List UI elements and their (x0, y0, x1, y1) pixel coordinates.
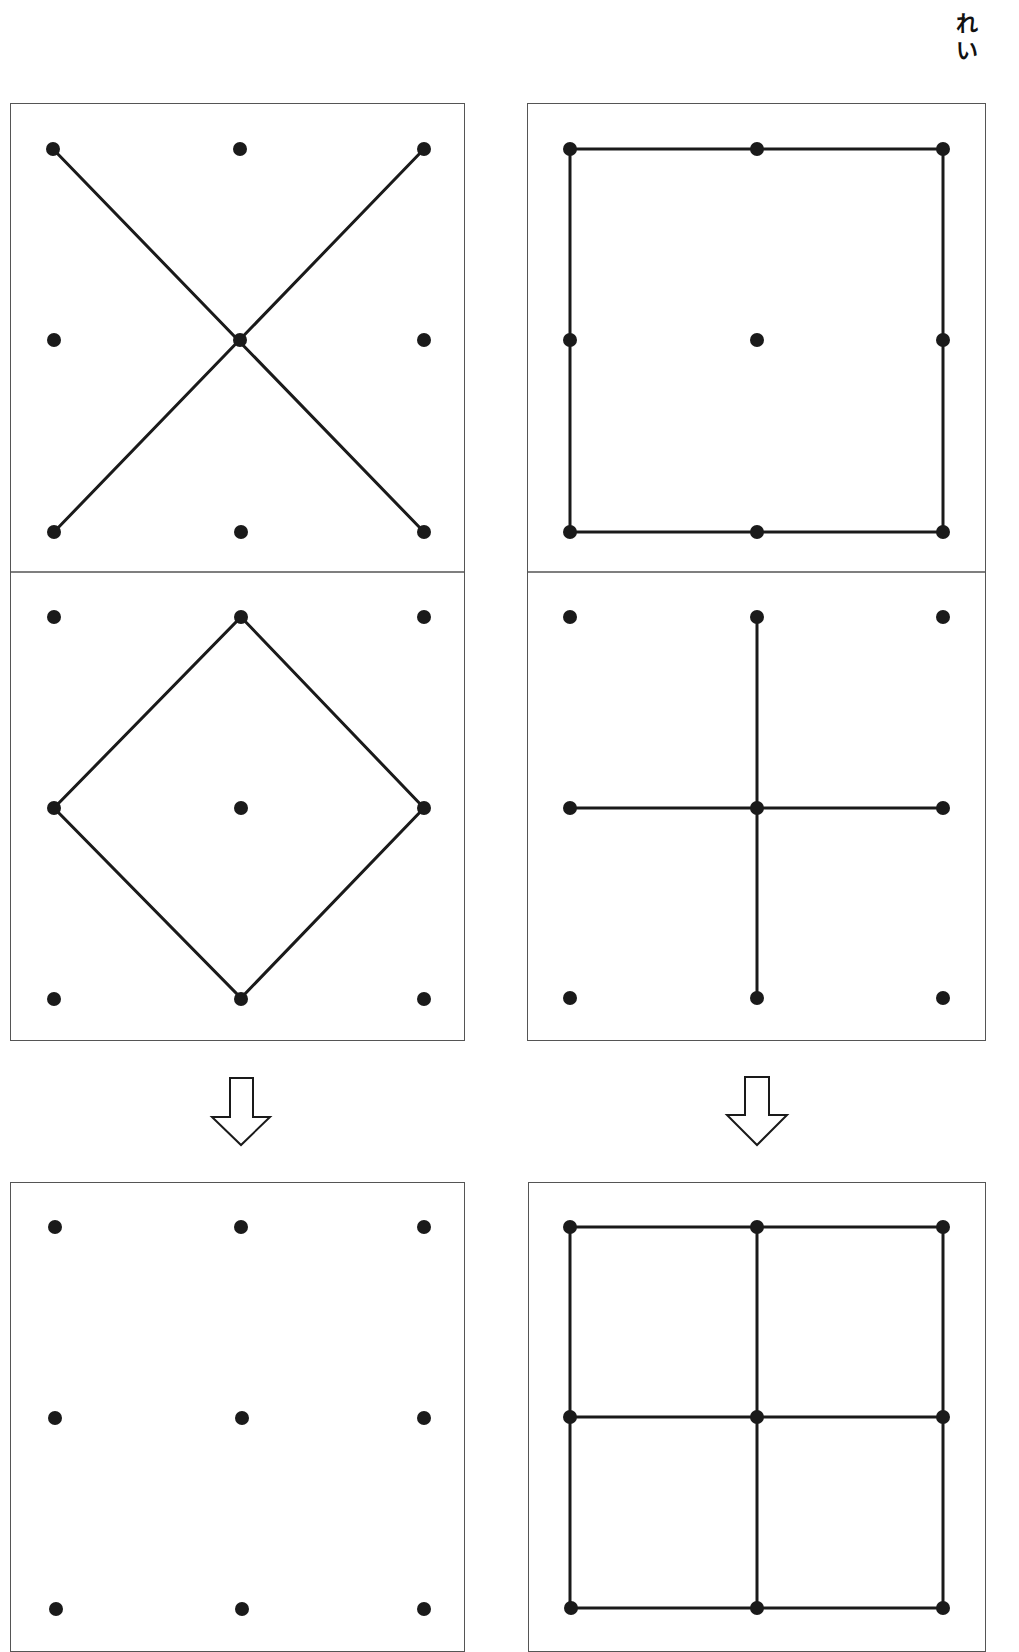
down-arrow-icon (727, 1077, 787, 1145)
dot-grid-right-1 (563, 142, 950, 539)
dot-grid-left-2 (47, 610, 431, 1006)
down-arrow-icon (212, 1078, 270, 1145)
dot-grid-left-answer[interactable] (48, 1220, 431, 1616)
